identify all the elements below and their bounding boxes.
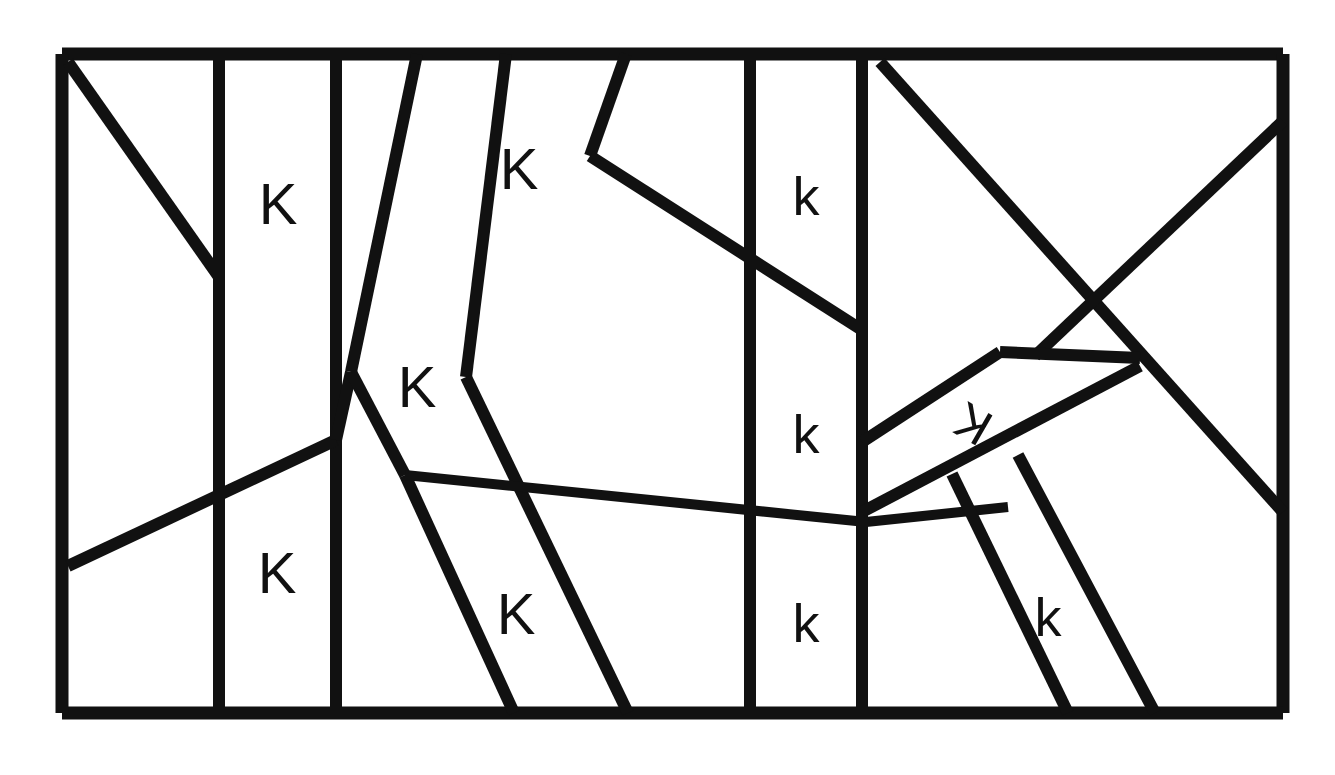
region-label: k — [793, 404, 821, 464]
partition-line — [405, 475, 866, 522]
partition-line — [880, 62, 1283, 512]
partition-line — [68, 62, 219, 277]
segment-group — [62, 54, 1283, 713]
region-label: K — [259, 171, 298, 236]
partition-line — [351, 54, 417, 372]
figure-canvas: KKkKkKKKkk — [0, 0, 1335, 775]
region-label: K — [258, 540, 297, 605]
region-label: K — [497, 581, 536, 646]
region-label: k — [1035, 587, 1063, 647]
partition-line — [590, 54, 626, 156]
partition-line — [466, 54, 506, 377]
region-label: K — [398, 354, 437, 419]
region-label: K — [500, 136, 539, 201]
region-label: k — [793, 166, 821, 226]
partition-line — [1035, 121, 1283, 356]
partition-line — [866, 507, 1008, 522]
partition-line — [862, 366, 1140, 512]
partition-line — [1000, 352, 1140, 358]
partition-diagram: KKkKkKKKkk — [0, 0, 1335, 775]
partition-line — [590, 156, 862, 330]
region-label: k — [793, 593, 821, 653]
partition-line — [1018, 455, 1155, 713]
